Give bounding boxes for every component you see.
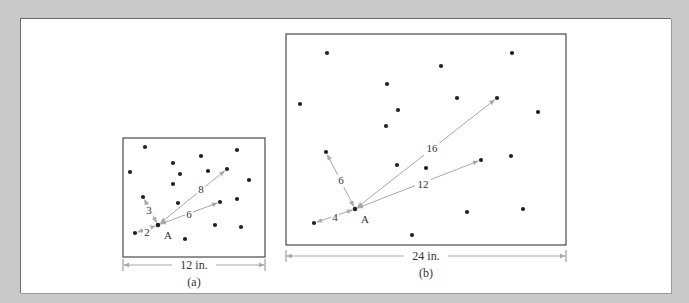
dot (439, 64, 443, 68)
dot (510, 51, 514, 55)
figure-a-caption: (a) (187, 275, 200, 289)
dot (385, 82, 389, 86)
point-a-dot (156, 223, 161, 228)
distance-label: 2 (144, 226, 150, 238)
dot (133, 231, 137, 235)
distance-label: 12 (418, 178, 429, 190)
dot (536, 110, 540, 114)
distance-label: 6 (338, 174, 344, 186)
dot (143, 145, 147, 149)
figure-b-box (286, 34, 566, 245)
dot (235, 148, 239, 152)
dot (199, 154, 203, 158)
dot (171, 161, 175, 165)
dot (455, 96, 459, 100)
distance-label: 3 (146, 204, 152, 216)
dot (178, 172, 182, 176)
figure-b: 461216A24 in.(b) (286, 34, 566, 280)
dot (424, 166, 428, 170)
dot (218, 200, 222, 204)
figure-page: 2368A12 in.(a) 461216A24 in.(b) (0, 0, 689, 303)
point-a-label: A (164, 229, 172, 241)
dot (206, 169, 210, 173)
dot (479, 158, 483, 162)
dot (128, 170, 132, 174)
dot (495, 96, 499, 100)
dot (312, 221, 316, 225)
dot (235, 197, 239, 201)
figure-a: 2368A12 in.(a) (123, 138, 265, 289)
dot (521, 207, 525, 211)
dot (298, 102, 302, 106)
dot (384, 124, 388, 128)
distance-label: 8 (198, 183, 204, 195)
dot (509, 154, 513, 158)
figure-b-caption: (b) (419, 266, 433, 280)
dot (171, 182, 175, 186)
dot (396, 108, 400, 112)
distance-label: 4 (332, 211, 338, 223)
dot (239, 225, 243, 229)
dot (183, 237, 187, 241)
distance-label: 16 (427, 142, 439, 154)
dot (395, 163, 399, 167)
dot-spacing-diagram: 2368A12 in.(a) 461216A24 in.(b) (0, 0, 689, 303)
dot (225, 167, 229, 171)
dot (176, 201, 180, 205)
dot (410, 233, 414, 237)
dot (325, 51, 329, 55)
point-a-label: A (361, 213, 369, 225)
dot (247, 178, 251, 182)
dot (324, 150, 328, 154)
point-a-dot (353, 207, 358, 212)
dot (141, 195, 145, 199)
distance-label: 6 (186, 208, 192, 220)
figure-a-width-label: 12 in. (180, 258, 207, 272)
figure-b-width-label: 24 in. (412, 249, 439, 263)
dot (465, 210, 469, 214)
dot (213, 223, 217, 227)
